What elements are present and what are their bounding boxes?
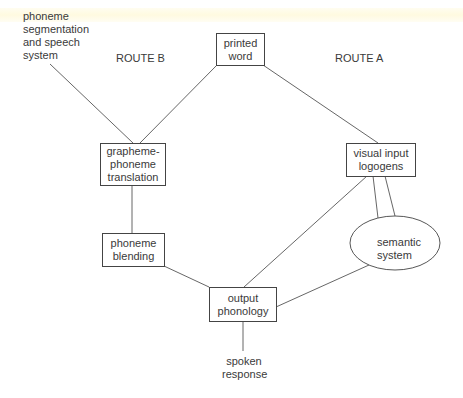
semantic-system-label: semantic system: [377, 236, 421, 262]
route-a-label: ROUTE A: [335, 52, 383, 65]
route-b-label: ROUTE B: [116, 52, 165, 65]
printed-word-box: printed word: [216, 33, 265, 66]
spoken-response-label: spoken response: [222, 355, 266, 381]
edge-logogens-to-semantic-b: [385, 176, 395, 216]
grapheme-phoneme-box: grapheme- phoneme translation: [100, 143, 166, 186]
phoneme-blending-box: phoneme blending: [102, 233, 165, 267]
edge-blending-to-output: [164, 266, 209, 287]
edge-printed-to-logogens: [263, 65, 378, 143]
edge-segmentation-to-grapheme: [50, 64, 133, 143]
phoneme-segmentation-label: phoneme segmentation and speech system: [23, 10, 89, 62]
output-phonology-box: output phonology: [209, 287, 277, 322]
edge-printed-to-grapheme: [140, 65, 217, 143]
visual-input-logogens-box: visual input logogens: [346, 143, 416, 177]
edge-logogens-to-semantic-a: [373, 176, 378, 218]
edge-semantic-to-output: [276, 265, 369, 307]
edge-logogens-to-output: [244, 176, 367, 287]
